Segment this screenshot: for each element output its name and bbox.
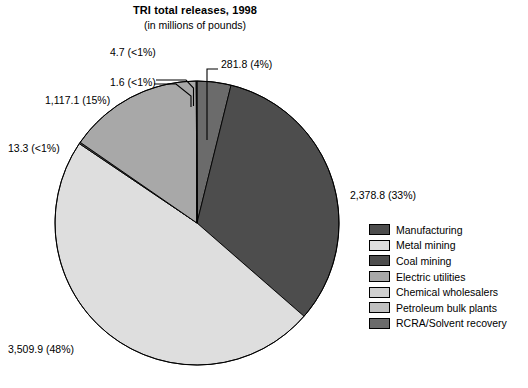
legend-swatch-icon — [369, 302, 390, 313]
value-label-petroleum-bulk-plants: 4.7 (<1%) — [110, 46, 156, 58]
legend-item-label: Manufacturing — [396, 224, 463, 236]
legend-item[interactable]: Metal mining — [369, 238, 527, 254]
legend-item-label: Coal mining — [396, 255, 451, 267]
legend-item[interactable]: Coal mining — [369, 253, 527, 269]
legend-item-label: Petroleum bulk plants — [396, 302, 497, 314]
value-label-chemical-wholesalers: 1.6 (<1%) — [110, 76, 156, 88]
legend-swatch-icon — [369, 224, 390, 235]
legend-swatch-icon — [369, 271, 390, 282]
legend-item[interactable]: Manufacturing — [369, 222, 527, 238]
legend-swatch-icon — [369, 318, 390, 329]
legend-item-label: Electric utilities — [396, 271, 465, 283]
pie-slice[interactable] — [196, 81, 197, 223]
legend-item[interactable]: Petroleum bulk plants — [369, 300, 527, 316]
value-label-coal-mining: 13.3 (<1%) — [8, 142, 60, 154]
legend-item[interactable]: Electric utilities — [369, 269, 527, 285]
value-label-manufacturing: 2,378.8 (33%) — [350, 189, 416, 201]
legend-swatch-icon — [369, 240, 390, 251]
legend-item-label: Chemical wholesalers — [396, 286, 498, 298]
legend-swatch-icon — [369, 255, 390, 266]
legend-item-label: Metal mining — [396, 239, 456, 251]
legend-item[interactable]: Chemical wholesalers — [369, 284, 527, 300]
value-label-electric-utilities: 1,117.1 (15%) — [45, 94, 110, 106]
legend-item[interactable]: RCRA/Solvent recovery — [369, 316, 527, 332]
pie-slices-group — [55, 81, 339, 365]
legend-swatch-icon — [369, 287, 390, 298]
value-label-metal-mining: 3,509.9 (48%) — [8, 343, 74, 355]
value-label-rcra-solvent-recovery: 281.8 (4%) — [221, 58, 272, 70]
chart-page: TRI total releases, 1998 (in millions of… — [0, 0, 528, 388]
chart-legend: ManufacturingMetal miningCoal miningElec… — [369, 222, 527, 331]
legend-item-label: RCRA/Solvent recovery — [396, 317, 507, 329]
